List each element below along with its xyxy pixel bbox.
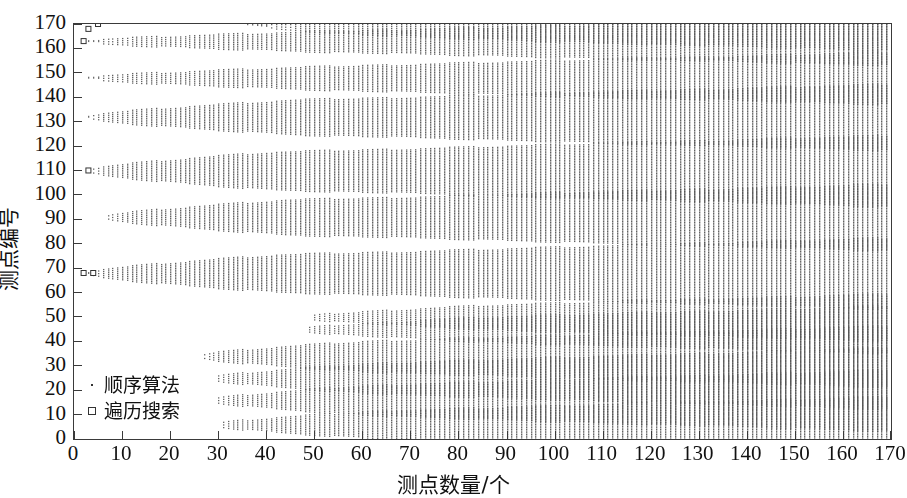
y-axis-tick-label: 50 xyxy=(18,305,66,326)
x-axis-tick xyxy=(651,431,652,439)
y-axis-tick-label: 60 xyxy=(18,281,66,302)
x-axis-tick xyxy=(266,431,267,439)
x-axis-tick xyxy=(699,431,700,439)
y-axis-tick xyxy=(74,341,82,342)
x-axis-title-text: 测点数量/个 xyxy=(397,473,509,497)
x-axis-tick-label: 120 xyxy=(627,443,673,464)
x-axis-tick xyxy=(843,431,844,439)
x-axis-tick-label: 80 xyxy=(434,443,480,464)
y-axis-tick xyxy=(74,194,82,195)
y-axis-tick-label: 170 xyxy=(18,12,66,33)
y-axis-tick xyxy=(74,243,82,244)
data-points-layer xyxy=(74,24,891,439)
y-axis-tick xyxy=(74,24,82,25)
square-marker-icon xyxy=(84,407,100,415)
y-axis-tick xyxy=(74,365,82,366)
x-axis-tick-label: 170 xyxy=(867,443,907,464)
x-axis-tick xyxy=(122,431,123,439)
legend-item-sequential: 顺序算法 xyxy=(84,372,180,398)
y-axis-tick-label: 90 xyxy=(18,207,66,228)
legend-label: 顺序算法 xyxy=(104,372,180,398)
y-axis-tick-label: 40 xyxy=(18,329,66,350)
x-axis-tick-label: 30 xyxy=(194,443,240,464)
x-axis-tick xyxy=(362,431,363,439)
y-axis-tick xyxy=(74,48,82,49)
x-axis-tick xyxy=(218,431,219,439)
chart-figure: 测点编号 01020304050607080901001101201301401… xyxy=(0,0,907,498)
x-axis-tick xyxy=(458,431,459,439)
y-axis-tick xyxy=(74,316,82,317)
x-axis-tick-label: 110 xyxy=(579,443,625,464)
y-axis-tick-label: 10 xyxy=(18,403,66,424)
y-axis-tick-label: 130 xyxy=(18,110,66,131)
y-axis-tick xyxy=(74,292,82,293)
y-axis-tick-label: 70 xyxy=(18,256,66,277)
x-axis-tick xyxy=(314,431,315,439)
y-axis-tick-label: 160 xyxy=(18,36,66,57)
x-axis-tick-label: 20 xyxy=(146,443,192,464)
y-axis-tick xyxy=(74,72,82,73)
y-axis-title: 测点编号 xyxy=(0,0,20,498)
y-axis-tick-label: 80 xyxy=(18,232,66,253)
x-axis-tick xyxy=(555,431,556,439)
x-axis-title: 测点数量/个 xyxy=(0,468,907,498)
x-axis-tick-label: 140 xyxy=(723,443,769,464)
chart-legend: 顺序算法 遍历搜索 xyxy=(84,372,180,424)
x-axis-tick-label: 0 xyxy=(50,443,96,464)
y-axis-tick xyxy=(74,439,82,440)
x-axis-tick xyxy=(170,431,171,439)
x-axis-tick-label: 160 xyxy=(819,443,865,464)
y-axis-tick-label: 110 xyxy=(18,158,66,179)
x-axis-tick xyxy=(747,431,748,439)
x-axis-tick xyxy=(890,431,891,439)
x-axis-tick xyxy=(410,431,411,439)
legend-label: 遍历搜索 xyxy=(104,398,180,424)
y-axis-tick-label: 140 xyxy=(18,85,66,106)
x-axis-tick xyxy=(603,431,604,439)
y-axis-tick-label: 30 xyxy=(18,354,66,375)
y-axis-tick-label: 20 xyxy=(18,378,66,399)
plot-area xyxy=(73,23,892,440)
x-axis-tick-label: 90 xyxy=(483,443,529,464)
x-axis-tick-label: 130 xyxy=(675,443,721,464)
y-axis-tick xyxy=(74,390,82,391)
x-axis-tick-label: 100 xyxy=(531,443,577,464)
y-axis-tick xyxy=(74,219,82,220)
x-axis-tick xyxy=(507,431,508,439)
x-axis-tick xyxy=(795,431,796,439)
x-axis-tick-label: 150 xyxy=(771,443,817,464)
x-axis-tick-label: 50 xyxy=(290,443,336,464)
y-axis-tick xyxy=(74,170,82,171)
y-axis-tick xyxy=(74,414,82,415)
x-axis-tick-label: 40 xyxy=(242,443,288,464)
y-axis-tick xyxy=(74,146,82,147)
legend-item-traversal: 遍历搜索 xyxy=(84,398,180,424)
dot-marker-icon xyxy=(84,384,100,386)
y-axis-tick-label: 100 xyxy=(18,183,66,204)
x-axis-tick-label: 60 xyxy=(338,443,384,464)
y-axis-tick xyxy=(74,97,82,98)
x-axis-tick-label: 70 xyxy=(386,443,432,464)
y-axis-tick xyxy=(74,121,82,122)
x-axis-tick xyxy=(74,431,75,439)
y-axis-tick-label: 120 xyxy=(18,134,66,155)
y-axis-tick-label: 150 xyxy=(18,61,66,82)
y-axis-tick xyxy=(74,268,82,269)
x-axis-tick-label: 10 xyxy=(98,443,144,464)
